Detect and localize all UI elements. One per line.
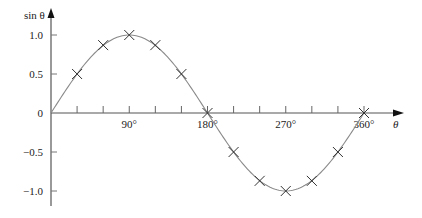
x-marker-icon [229, 147, 239, 157]
y-tick-label: −0.5 [23, 146, 43, 158]
x-marker-icon [307, 176, 317, 186]
y-tick-label: 0.5 [29, 68, 43, 80]
x-marker-icon [176, 69, 186, 79]
y-axis-label: sin θ [24, 9, 45, 21]
y-tick-label: 1.0 [29, 29, 43, 41]
x-tick-label: 270° [275, 118, 296, 130]
x-marker-icon [255, 176, 265, 186]
x-marker-icon [150, 40, 160, 50]
y-axis-arrow-icon [48, 8, 55, 18]
x-marker-icon [333, 147, 343, 157]
x-marker-icon [98, 40, 108, 50]
y-tick-label: −1.0 [23, 185, 43, 197]
x-tick-label: 90° [122, 118, 137, 130]
sine-chart: 90°180°270°360°1.00.50−0.5−1.0 sin θ θ [0, 0, 422, 218]
y-tick-label: 0 [38, 107, 44, 119]
x-axis-arrow-icon [393, 110, 404, 117]
axes: 90°180°270°360°1.00.50−0.5−1.0 [23, 8, 404, 206]
x-axis-label: θ [393, 118, 399, 130]
x-marker-icon [72, 69, 82, 79]
